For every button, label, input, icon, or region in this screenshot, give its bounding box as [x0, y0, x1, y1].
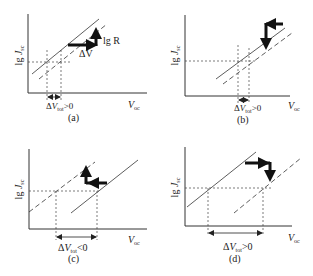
diagram-canvas — [0, 0, 313, 276]
dashed-curve — [223, 33, 292, 84]
x-label-sub: oc — [294, 106, 300, 112]
delta-v-label: ΔVtot>0 — [46, 102, 73, 112]
guide-lines — [185, 188, 272, 236]
panel-d — [185, 147, 301, 236]
shift-arrows — [245, 162, 270, 176]
panel-c — [29, 149, 147, 240]
solid-curve — [71, 160, 138, 213]
solid-curve — [187, 152, 256, 207]
y-label-sub: sc — [175, 178, 181, 183]
delta-relation: >0 — [242, 241, 253, 252]
panel-caption: (a) — [68, 113, 79, 123]
y-label-sub: sc — [175, 46, 181, 51]
arrow-label-delta-v: ΔV — [79, 49, 93, 59]
arrow-label-lg-r: lg R — [103, 36, 120, 46]
axes — [29, 149, 147, 229]
delta-v-label: ΔVtot>0 — [234, 104, 261, 114]
y-axis-label: lg Jsc — [170, 39, 181, 73]
y-axis-label: lg Jsc — [170, 171, 181, 205]
y-label-sub: sc — [19, 180, 25, 185]
delta-v-label: ΔVtot>0 — [223, 242, 253, 253]
panel-caption: (d) — [229, 254, 241, 264]
y-axis-label: lg Jsc — [14, 173, 25, 207]
guide-lines — [185, 45, 256, 103]
x-axis-label: Voc — [288, 101, 300, 112]
dashed-curve — [29, 162, 95, 212]
x-label-sub: oc — [134, 105, 140, 111]
axes — [185, 147, 292, 226]
shift-arrows — [266, 23, 283, 44]
delta-relation: >0 — [252, 103, 262, 113]
shift-arrows — [68, 33, 96, 46]
delta-relation: >0 — [64, 101, 74, 111]
x-axis-label: Voc — [288, 233, 300, 244]
x-axis-label: Voc — [128, 100, 140, 111]
y-label-var: J — [169, 183, 180, 187]
solid-curve — [216, 28, 285, 79]
dashed-curve — [39, 24, 107, 79]
guide-lines — [29, 191, 99, 240]
y-label-var: J — [169, 51, 180, 55]
delta-relation: <0 — [77, 242, 88, 253]
shift-arrows — [86, 171, 107, 184]
y-label-prefix: lg — [169, 55, 180, 65]
panel-caption: (b) — [237, 115, 249, 125]
x-axis-label: Voc — [128, 235, 140, 246]
x-label-sub: oc — [134, 240, 140, 246]
dashed-curve — [234, 158, 301, 213]
panel-caption: (c) — [68, 254, 79, 264]
y-label-prefix: lg — [13, 189, 24, 199]
axes — [185, 15, 290, 96]
y-label-sub: sc — [19, 46, 25, 51]
y-label-var: J — [13, 51, 24, 55]
x-label-sub: oc — [294, 238, 300, 244]
y-axis-label: lg Jsc — [14, 39, 25, 73]
panel-b — [185, 15, 292, 103]
y-label-prefix: lg — [169, 187, 180, 197]
y-label-var: J — [13, 185, 24, 189]
y-label-prefix: lg — [13, 55, 24, 65]
